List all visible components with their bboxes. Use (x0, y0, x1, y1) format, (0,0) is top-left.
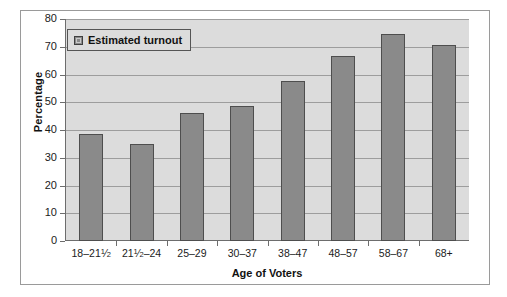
x-axis-tick-label: 48–57 (328, 247, 357, 259)
legend-label: Estimated turnout (88, 34, 182, 46)
bar-slot (419, 19, 469, 241)
x-axis-label-group: 18–211⁄2211⁄2–2425–2930–3738–4748–5758–6… (66, 247, 469, 263)
x-axis-tick-label: 211⁄2–24 (122, 247, 161, 259)
bar-slot (268, 19, 318, 241)
bar-slot (217, 19, 267, 241)
bar (79, 134, 103, 241)
y-axis-tick-group: 01020304050607080 (21, 19, 65, 241)
bar (432, 45, 456, 241)
bar (331, 56, 355, 241)
x-axis-tick-label: 30–37 (228, 247, 257, 259)
y-axis-tick-label: 60 (45, 68, 57, 80)
bar (381, 34, 405, 241)
chart-figure: Percentage 01020304050607080 18–211⁄2211… (20, 10, 490, 285)
bar (180, 113, 204, 241)
y-axis-tick-label: 0 (51, 234, 57, 246)
x-axis-tick-mark (116, 241, 117, 246)
y-axis-tick-mark (60, 241, 65, 242)
y-axis-tick-label: 20 (45, 179, 57, 191)
bar-slot (66, 19, 116, 241)
y-axis-tick-label: 30 (45, 151, 57, 163)
bar (230, 106, 254, 241)
y-axis-tick-label: 50 (45, 95, 57, 107)
x-axis-tick-label: 38–47 (278, 247, 307, 259)
x-axis-tick-mark (419, 241, 420, 246)
bar-slot (167, 19, 217, 241)
x-axis-tick-label: 25–29 (177, 247, 206, 259)
x-axis-tick-label: 18–211⁄2 (72, 247, 111, 259)
x-axis-tick-mark (167, 241, 168, 246)
x-axis-tick-mark (368, 241, 369, 246)
fraction-glyph: 1⁄2 (101, 247, 111, 259)
x-axis-tick-mark (318, 241, 319, 246)
chart-legend: Estimated turnout (67, 29, 191, 51)
x-axis-tick-mark (217, 241, 218, 246)
y-axis-tick-label: 10 (45, 206, 57, 218)
bar (281, 81, 305, 241)
x-axis-tick-mark (268, 241, 269, 246)
bar-slot (116, 19, 166, 241)
x-axis-tick-label: 58–67 (379, 247, 408, 259)
fraction-glyph: 1⁄2 (134, 247, 144, 259)
y-axis-tick-label: 80 (45, 12, 57, 24)
x-axis-tick-label: 68+ (435, 247, 453, 259)
bar-series-estimated-turnout (66, 19, 469, 241)
y-axis-tick-label: 70 (45, 40, 57, 52)
bar-slot (318, 19, 368, 241)
x-axis-title: Age of Voters (65, 267, 469, 279)
bar-slot (368, 19, 418, 241)
bar (130, 144, 154, 241)
legend-swatch-icon (74, 36, 83, 45)
y-axis-tick-label: 40 (45, 123, 57, 135)
